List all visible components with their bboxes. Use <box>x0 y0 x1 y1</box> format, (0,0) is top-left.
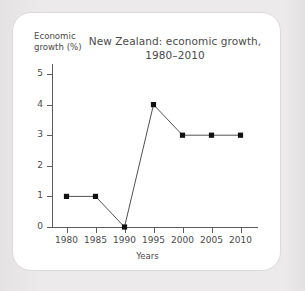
series-line <box>67 105 241 227</box>
data-point-1990 <box>122 224 127 229</box>
data-point-2005 <box>209 133 214 138</box>
chart-card: Economic growth (%) New Zealand: economi… <box>12 12 281 271</box>
plot-area: 012345 1980198519901995200020052010 <box>13 13 282 272</box>
series-markers <box>64 102 243 230</box>
screenshot-root: Economic growth (%) New Zealand: economi… <box>0 0 305 291</box>
data-point-1985 <box>93 194 98 199</box>
data-point-2000 <box>180 133 185 138</box>
data-series-layer <box>13 13 282 272</box>
data-point-1980 <box>64 194 69 199</box>
page-background-right <box>279 0 305 291</box>
data-point-2010 <box>238 133 243 138</box>
x-axis-label: Years <box>13 251 282 261</box>
data-point-1995 <box>151 102 156 107</box>
